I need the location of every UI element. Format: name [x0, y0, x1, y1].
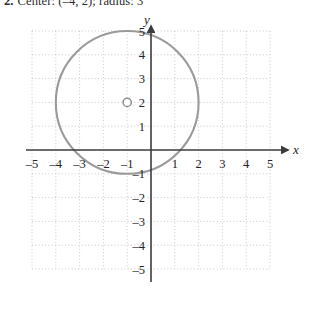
problem-number: 2.	[4, 0, 14, 8]
x-tick: –1	[120, 157, 134, 171]
center-point-marker	[123, 98, 131, 106]
x-tick: 4	[243, 157, 250, 171]
y-tick: –5	[132, 263, 146, 277]
x-tick: 2	[195, 157, 201, 171]
axis-lines	[26, 26, 288, 282]
y-tick: 5	[139, 25, 145, 39]
x-tick: –5	[25, 157, 39, 171]
coordinate-plane-graph: x y –5 –4 –3 –2 –1 1 2 3 4 5 5 4 3 2 1 –…	[0, 18, 318, 316]
x-tick: 1	[172, 157, 178, 171]
x-tick: –3	[72, 157, 86, 171]
y-tick: 1	[139, 120, 145, 134]
x-tick: –2	[96, 157, 110, 171]
x-tick: 3	[219, 157, 225, 171]
problem-text: Center: (–4, 2); radius: 3	[18, 0, 144, 8]
y-tick: –1	[132, 167, 146, 181]
x-tick: 5	[267, 157, 273, 171]
y-tick: –3	[132, 215, 146, 229]
y-tick: 3	[139, 72, 145, 86]
y-tick: –2	[132, 191, 146, 205]
x-tick: –4	[49, 157, 63, 171]
y-tick: –4	[132, 239, 146, 253]
y-tick: 2	[139, 96, 145, 110]
x-tick-labels: –5 –4 –3 –2 –1 1 2 3 4 5	[25, 157, 273, 171]
problem-heading: 2.Center: (–4, 2); radius: 3	[4, 0, 304, 9]
x-axis-label: x	[292, 142, 299, 157]
y-tick: 4	[139, 48, 146, 62]
